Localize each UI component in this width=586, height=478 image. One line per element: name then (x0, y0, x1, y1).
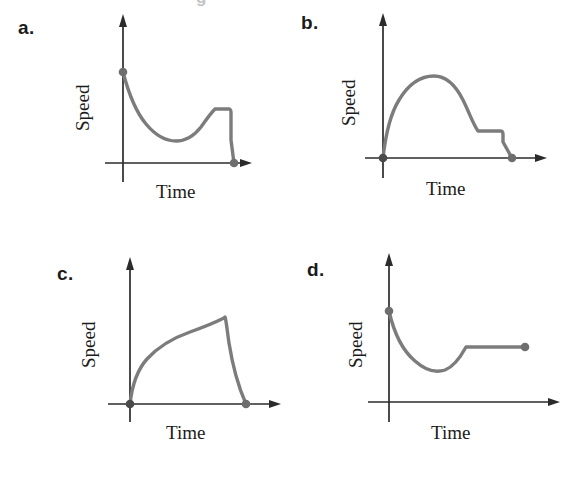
panel-d: d. Speed Time (293, 239, 586, 478)
panel-d-y-axis (385, 253, 393, 422)
panel-a: a. Speed Time (0, 0, 293, 239)
panel-b-plot (293, 0, 586, 239)
panel-d-start-dot (385, 307, 394, 316)
panel-a-plot (0, 0, 293, 239)
panel-a-y-axis (119, 14, 127, 182)
panel-b-start-dot (379, 154, 388, 163)
panel-c: c. Speed Time (0, 239, 293, 478)
panel-a-curve (123, 72, 234, 163)
panel-a-start-dot (119, 68, 128, 77)
panel-c-end-dot (242, 400, 251, 409)
panel-c-start-dot (126, 400, 135, 409)
panel-b: b. Speed Time (293, 0, 586, 239)
panel-b-curve (383, 76, 512, 158)
panel-c-plot (0, 239, 293, 478)
panel-a-end-dot (230, 159, 239, 168)
figure-container: g a. Speed Time b. Speed Time (0, 0, 586, 478)
panel-b-x-axis (365, 154, 547, 162)
panel-b-end-dot (508, 154, 517, 163)
panel-d-x-axis (368, 398, 560, 406)
panel-d-curve (389, 311, 525, 371)
panel-d-end-dot (521, 343, 530, 352)
panel-d-plot (293, 239, 586, 478)
panel-c-curve (130, 317, 246, 404)
